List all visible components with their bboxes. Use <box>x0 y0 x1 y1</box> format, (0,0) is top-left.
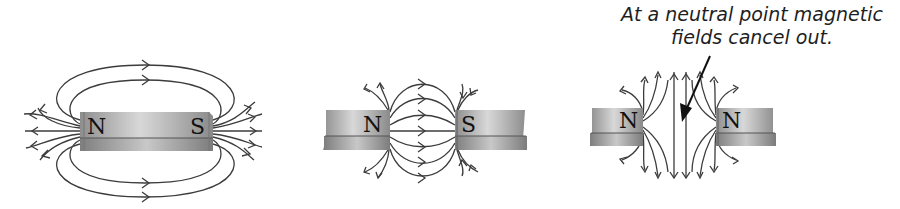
bar-magnet-north: N <box>323 110 390 150</box>
neutral-point-arrow <box>680 56 710 122</box>
north-pole-label-right: N <box>722 108 741 133</box>
caption-line-2: fields cancel out. <box>606 26 898 49</box>
south-pole-label: S <box>461 112 476 137</box>
panel-repulsion: N N <box>590 56 776 178</box>
panel-single-magnet: N S <box>24 60 262 202</box>
north-pole-label: N <box>87 114 106 139</box>
neutral-point-caption: At a neutral point magnetic fields cance… <box>606 3 898 49</box>
panel-attraction: N S <box>323 79 527 183</box>
bar-magnet-left-north: N <box>590 108 643 146</box>
caption-line-1: At a neutral point magnetic <box>606 3 898 26</box>
bar-magnet-right-north: N <box>716 108 776 146</box>
bar-magnet-south: S <box>455 110 527 150</box>
north-pole-label: N <box>363 112 382 137</box>
bar-magnet: N S <box>80 112 213 151</box>
magnetic-field-diagram: N S <box>0 0 900 209</box>
south-pole-label: S <box>190 114 205 139</box>
north-pole-label-left: N <box>619 108 638 133</box>
